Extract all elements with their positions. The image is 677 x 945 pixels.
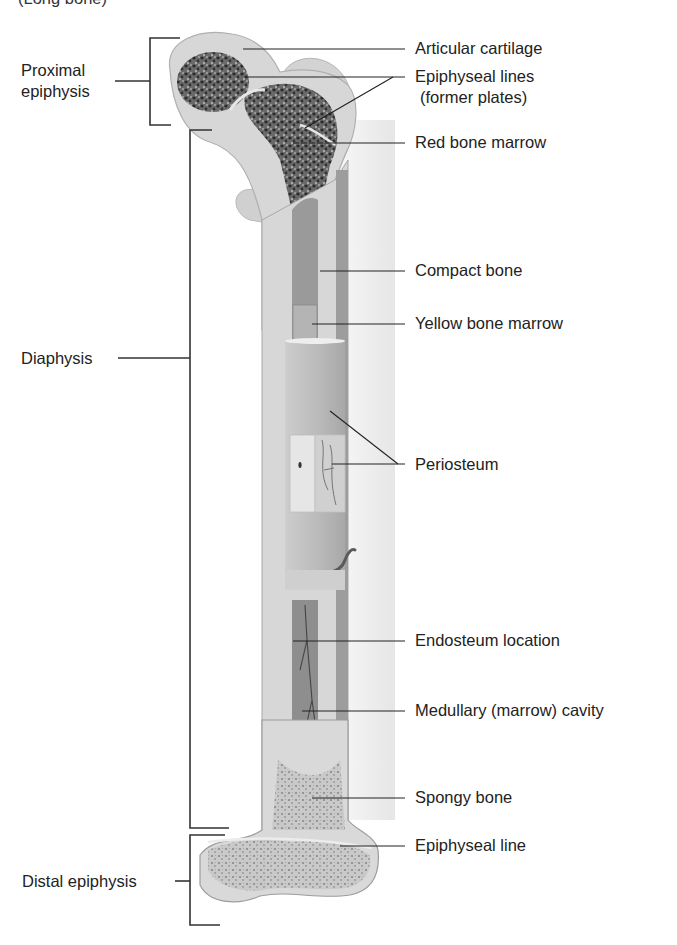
label-diaphysis: Diaphysis xyxy=(21,349,93,368)
label-proximal-epiphysis-line1: Proximal xyxy=(21,61,85,80)
label-medullary-cavity: Medullary (marrow) cavity xyxy=(415,701,604,720)
bone-illustration xyxy=(0,0,677,945)
label-articular-cartilage: Articular cartilage xyxy=(415,39,542,58)
label-proximal-epiphysis-line2: epiphysis xyxy=(21,82,90,101)
label-yellow-bone-marrow: Yellow bone marrow xyxy=(415,314,563,333)
label-distal-epiphysis: Distal epiphysis xyxy=(22,872,137,891)
label-epiphyseal-line: Epiphyseal line xyxy=(415,836,526,855)
label-compact-bone: Compact bone xyxy=(415,261,522,280)
region-brackets xyxy=(115,38,229,925)
label-spongy-bone: Spongy bone xyxy=(415,788,512,807)
label-epiphyseal-lines: Epiphyseal lines xyxy=(415,67,534,86)
long-bone-diagram: (Long bone) xyxy=(0,0,677,945)
label-red-bone-marrow: Red bone marrow xyxy=(415,133,546,152)
label-epiphyseal-lines-sub: (former plates) xyxy=(420,88,527,107)
label-periosteum: Periosteum xyxy=(415,455,498,474)
label-endosteum-location: Endosteum location xyxy=(415,631,560,650)
